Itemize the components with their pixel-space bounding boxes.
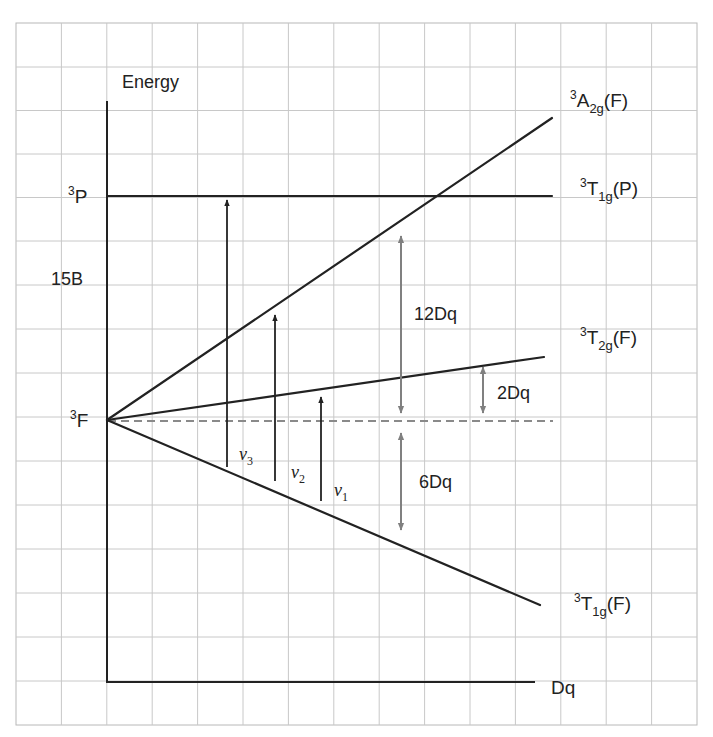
term-3P-label: 3P: [68, 184, 87, 207]
tanabe-sugano-diagram: Energy Dq 3P 3F 15B 3A2g(F) 3T1g(P) 3T2g…: [0, 0, 713, 737]
level-3T2g-line: [107, 357, 544, 420]
grid-vertical-lines: [61, 23, 651, 725]
gap-15B-label: 15B: [51, 269, 83, 289]
level-3A2g-line: [107, 118, 552, 420]
dq12-label: 12Dq: [414, 304, 457, 324]
label-3T1gP: 3T1g(P): [580, 176, 638, 204]
x-axis-label: Dq: [551, 677, 575, 698]
y-axis-label: Energy: [122, 72, 179, 92]
energy-levels: [107, 118, 552, 605]
nu3-label: ν3: [239, 444, 253, 468]
nu2-label: ν2: [291, 462, 305, 486]
grid-horizontal-lines: [16, 67, 697, 681]
label-3A2g: 3A2g(F): [570, 88, 628, 116]
axes: [106, 101, 535, 682]
nu1-label: ν1: [334, 480, 348, 504]
term-3F-label: 3F: [70, 408, 88, 431]
dq2-label: 2Dq: [497, 383, 530, 403]
grid: [16, 23, 697, 725]
dq6-label: 6Dq: [419, 472, 452, 492]
level-3T1gF-line: [107, 420, 540, 605]
label-3T1gF: 3T1g(F): [574, 591, 631, 619]
